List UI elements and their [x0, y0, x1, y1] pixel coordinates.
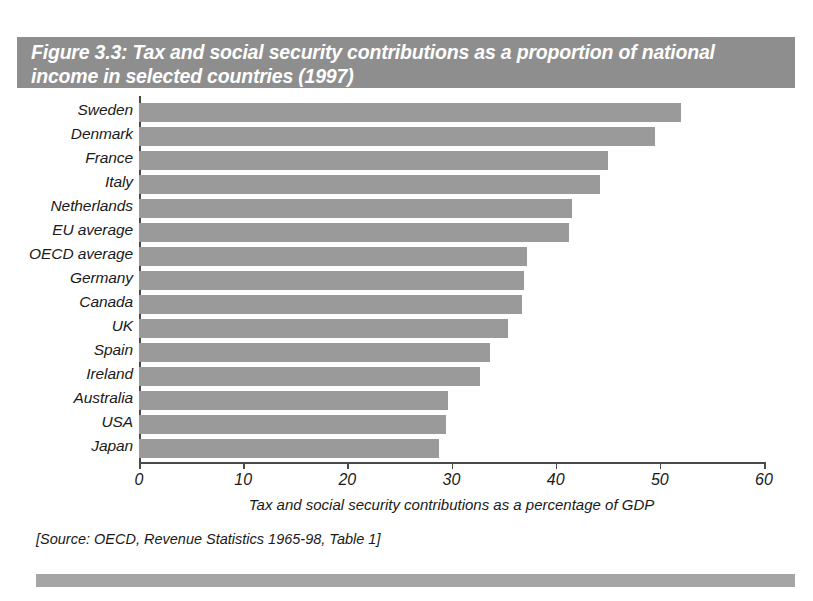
x-tick-mark [764, 462, 766, 469]
category-label: Sweden [0, 101, 133, 119]
category-label: Netherlands [0, 197, 133, 215]
page-title: Figure 3.3: Tax and social security cont… [31, 40, 783, 88]
bar [139, 367, 480, 386]
x-tick-mark [243, 462, 245, 469]
category-label: USA [0, 413, 133, 431]
category-label: Spain [0, 341, 133, 359]
source-note: [Source: OECD, Revenue Statistics 1965-9… [36, 531, 380, 547]
bar [139, 223, 569, 242]
bar [139, 103, 681, 122]
bar [139, 415, 446, 434]
category-label: OECD average [0, 245, 133, 263]
bar [139, 439, 439, 458]
bar [139, 151, 608, 170]
bar-chart: SwedenDenmarkFranceItalyNetherlandsEU av… [0, 96, 813, 476]
x-tick-mark [452, 462, 454, 469]
x-tick-label: 20 [338, 471, 356, 489]
category-label: Australia [0, 389, 133, 407]
bar [139, 199, 572, 218]
category-label: Canada [0, 293, 133, 311]
x-tick-mark [139, 462, 141, 469]
bar [139, 175, 600, 194]
bar [139, 295, 522, 314]
figure-title-banner: Figure 3.3: Tax and social security cont… [17, 37, 795, 88]
x-tick-label: 30 [443, 471, 461, 489]
category-label: Ireland [0, 365, 133, 383]
y-axis-category-labels: SwedenDenmarkFranceItalyNetherlandsEU av… [0, 96, 133, 462]
x-tick-mark [347, 462, 349, 469]
category-label: EU average [0, 221, 133, 239]
category-label: Japan [0, 437, 133, 455]
category-label: France [0, 149, 133, 167]
x-tick-label: 60 [755, 471, 773, 489]
bar [139, 343, 490, 362]
bar [139, 319, 508, 338]
category-label: UK [0, 317, 133, 335]
category-label: Denmark [0, 125, 133, 143]
bar [139, 271, 524, 290]
x-tick-label: 50 [651, 471, 669, 489]
x-tick-mark [556, 462, 558, 469]
x-tick-label: 40 [547, 471, 565, 489]
x-tick-label: 10 [234, 471, 252, 489]
bars-layer [139, 96, 779, 462]
category-label: Germany [0, 269, 133, 287]
bar [139, 391, 448, 410]
x-tick-label: 0 [135, 471, 144, 489]
x-axis-title: Tax and social security contributions as… [139, 496, 764, 513]
footer-rule [36, 574, 795, 587]
category-label: Italy [0, 173, 133, 191]
bar [139, 127, 655, 146]
bar [139, 247, 527, 266]
x-tick-mark [660, 462, 662, 469]
